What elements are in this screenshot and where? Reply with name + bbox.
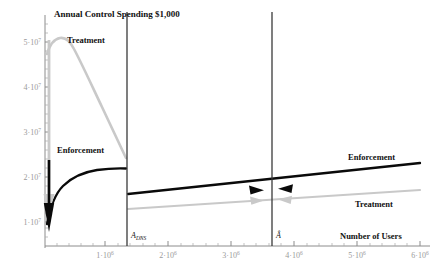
a-hat-label: Â — [275, 230, 281, 240]
enforcement-label-left: Enforcement — [57, 145, 104, 155]
chart-background — [0, 0, 432, 270]
treatment-label-right: Treatment — [355, 199, 393, 209]
treatment-label-upper: Treatment — [67, 35, 105, 45]
chart-title: Annual Control Spending $1,000 — [54, 9, 180, 19]
enforcement-label-right: Enforcement — [348, 152, 395, 162]
x-axis-label: Number of Users — [340, 231, 402, 241]
chart-container: 1·107 2·107 3·107 4·107 5·107 — [0, 0, 432, 270]
control-spending-chart: 1·107 2·107 3·107 4·107 5·107 — [0, 0, 432, 270]
